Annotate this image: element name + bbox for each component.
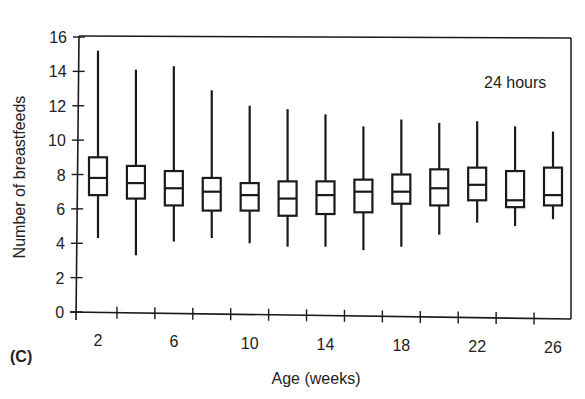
boxplot-chart: 0246810121416 261014182226 24 hours Numb…	[0, 0, 585, 399]
box-week-10	[241, 106, 259, 244]
y-tick-label: 6	[56, 201, 65, 218]
y-axis-label: Number of breastfeeds	[11, 96, 28, 259]
box-week-20	[430, 123, 448, 235]
y-tick-label: 2	[56, 270, 65, 287]
box-week-2	[89, 51, 107, 238]
x-tick-label: 26	[544, 339, 562, 356]
y-tick-label: 14	[49, 63, 67, 80]
x-axis-label: Age (weeks)	[272, 370, 361, 387]
box-week-24	[506, 126, 524, 226]
y-tick-label: 10	[48, 132, 66, 149]
box-week-16	[354, 126, 372, 250]
annotation-label: 24 hours	[484, 74, 546, 91]
y-tick-label: 12	[48, 98, 66, 115]
box-week-8	[203, 90, 221, 238]
box-week-12	[279, 109, 297, 247]
x-tick-label: 22	[468, 338, 486, 355]
box-week-22	[468, 121, 486, 222]
box-week-18	[392, 120, 410, 247]
x-tick-label: 2	[94, 332, 103, 349]
x-tick-label: 14	[317, 336, 335, 353]
box-week-4	[127, 70, 145, 256]
panel-label: (C)	[10, 348, 32, 365]
y-axis: 0246810121416	[48, 29, 85, 321]
x-tick-label: 6	[169, 333, 178, 350]
box-week-26	[544, 132, 562, 220]
y-tick-label: 0	[55, 304, 64, 321]
y-tick-label: 4	[56, 235, 65, 252]
y-tick-label: 8	[57, 167, 66, 184]
box-week-14	[317, 114, 335, 246]
x-tick-label: 18	[392, 337, 410, 354]
box-week-6	[165, 66, 183, 241]
y-tick-label: 16	[49, 29, 67, 46]
x-tick-label: 10	[241, 335, 259, 352]
x-axis: 261014182226	[70, 307, 571, 356]
